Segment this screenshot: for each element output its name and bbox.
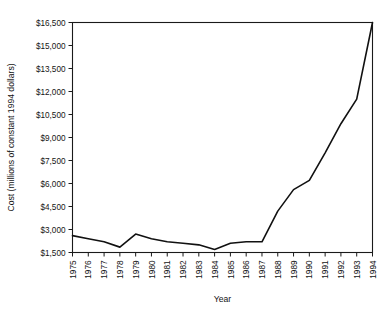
y-tick-label: $12,000 [36, 88, 66, 97]
x-tick-label: 1976 [84, 260, 93, 279]
x-tick-label: 1982 [179, 260, 188, 279]
chart-canvas: $1,500$3,000$4,500$6,000$7,500$9,000$10,… [0, 0, 389, 314]
x-tick-label: 1994 [369, 260, 378, 279]
y-tick-label: $15,000 [36, 42, 66, 51]
x-tick-label: 1990 [305, 260, 314, 279]
x-tick-label: 1979 [132, 260, 141, 279]
y-tick-label: $1,500 [40, 249, 65, 258]
y-tick-label: $13,500 [36, 65, 66, 74]
y-tick-label: $6,000 [40, 180, 65, 189]
x-tick-label: 1975 [69, 260, 78, 279]
x-tick-label: 1991 [321, 260, 330, 279]
x-tick-label: 1977 [100, 260, 109, 279]
x-tick-label: 1984 [211, 260, 220, 279]
y-tick-label: $7,500 [40, 157, 65, 166]
x-tick-label: 1986 [242, 260, 251, 279]
y-tick-label: $9,000 [40, 134, 65, 143]
x-tick-label: 1980 [148, 260, 157, 279]
y-tick-label: $4,500 [40, 203, 65, 212]
x-tick-label: 1978 [116, 260, 125, 279]
x-tick-label: 1981 [163, 260, 172, 279]
y-tick-label: $16,500 [36, 19, 66, 28]
x-tick-label: 1983 [195, 260, 204, 279]
y-tick-label: $3,000 [40, 226, 65, 235]
x-tick-label: 1993 [353, 260, 362, 279]
line-chart-figure: $1,500$3,000$4,500$6,000$7,500$9,000$10,… [0, 0, 389, 314]
x-tick-label: 1992 [337, 260, 346, 279]
x-tick-label: 1987 [258, 260, 267, 279]
x-axis-title: Year [214, 294, 232, 304]
x-tick-label: 1989 [290, 260, 299, 279]
x-tick-label: 1985 [226, 260, 235, 279]
y-axis-title: Cost (millions of constant 1994 dollars) [6, 63, 16, 211]
y-tick-label: $10,500 [36, 111, 66, 120]
x-tick-label: 1988 [274, 260, 283, 279]
